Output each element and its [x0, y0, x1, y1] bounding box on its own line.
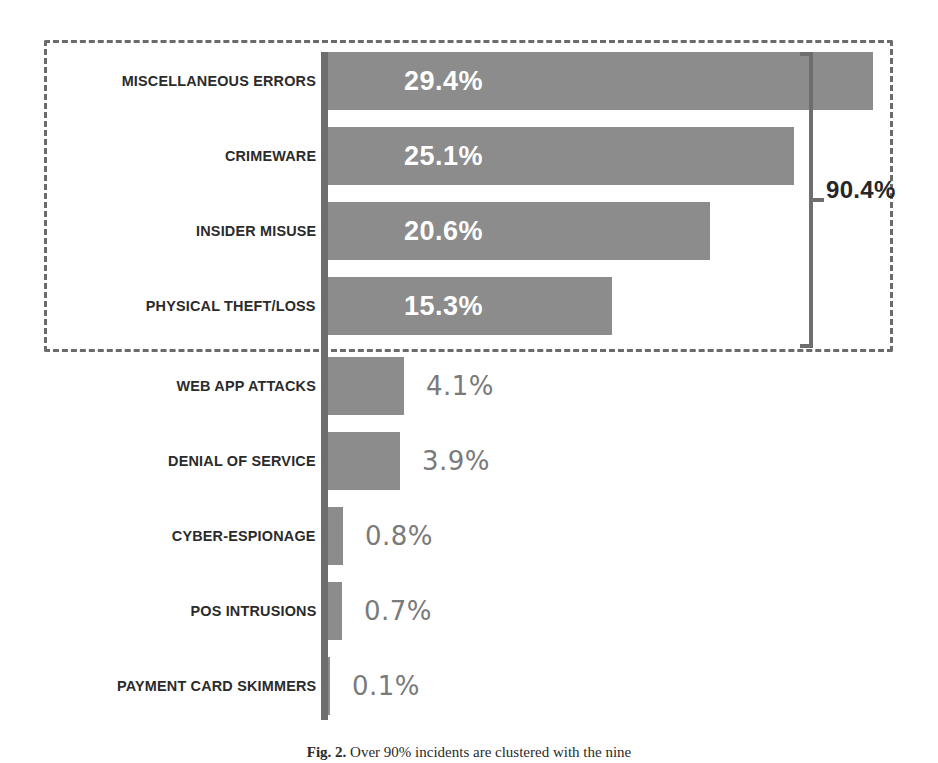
- bar-category-label: CRIMEWARE: [225, 127, 316, 185]
- bar-row: PHYSICAL THEFT/LOSS15.3%: [0, 277, 938, 335]
- bar-row: WEB APP ATTACKS4.1%: [0, 357, 938, 415]
- figure-caption-text: Over 90% incidents are clustered with th…: [350, 744, 631, 760]
- bar-value-label-inside: 15.3%: [404, 277, 483, 335]
- bar: [328, 432, 400, 490]
- bar-row: CYBER-ESPIONAGE0.8%: [0, 507, 938, 565]
- bar-category-label: INSIDER MISUSE: [196, 202, 316, 260]
- bar-value-label-outside: 3.9%: [422, 432, 490, 490]
- bar-category-label: PHYSICAL THEFT/LOSS: [146, 277, 316, 335]
- bar-value-label-outside: 0.7%: [364, 582, 432, 640]
- bar-value-label-outside: 0.8%: [365, 507, 433, 565]
- bar: [328, 127, 794, 185]
- bar-row: MISCELLANEOUS ERRORS29.4%: [0, 52, 938, 110]
- bar-value-label-inside: 25.1%: [404, 127, 483, 185]
- summary-bracket: [800, 52, 822, 348]
- bar-category-label: PAYMENT CARD SKIMMERS: [117, 657, 316, 715]
- figure-caption: Fig. 2. Over 90% incidents are clustered…: [0, 744, 938, 761]
- bar-category-label: CYBER-ESPIONAGE: [172, 507, 316, 565]
- bracket-tick: [811, 198, 824, 202]
- bracket-cap-bottom: [800, 344, 813, 348]
- bar: [328, 657, 330, 715]
- bar-row: DENIAL OF SERVICE3.9%: [0, 432, 938, 490]
- bar: [328, 507, 343, 565]
- bar-category-label: WEB APP ATTACKS: [177, 357, 316, 415]
- bar: [328, 202, 710, 260]
- bar-category-label: DENIAL OF SERVICE: [168, 432, 316, 490]
- bracket-total-label: 90.4%: [826, 176, 896, 204]
- bar-category-label: POS INTRUSIONS: [190, 582, 316, 640]
- bar: [328, 582, 342, 640]
- bar-row: INSIDER MISUSE20.6%: [0, 202, 938, 260]
- figure-container: MISCELLANEOUS ERRORS29.4%CRIMEWARE25.1%I…: [0, 0, 938, 763]
- bar-value-label-outside: 0.1%: [352, 657, 420, 715]
- bar-value-label-inside: 20.6%: [404, 202, 483, 260]
- figure-caption-number: Fig. 2.: [307, 744, 347, 760]
- bar-category-label: MISCELLANEOUS ERRORS: [122, 52, 316, 110]
- bar-chart: MISCELLANEOUS ERRORS29.4%CRIMEWARE25.1%I…: [0, 0, 938, 720]
- bar-row: POS INTRUSIONS0.7%: [0, 582, 938, 640]
- bar-row: CRIMEWARE25.1%: [0, 127, 938, 185]
- bar: [328, 357, 404, 415]
- bar-value-label-inside: 29.4%: [404, 52, 483, 110]
- bar-value-label-outside: 4.1%: [426, 357, 494, 415]
- bar-row: PAYMENT CARD SKIMMERS0.1%: [0, 657, 938, 715]
